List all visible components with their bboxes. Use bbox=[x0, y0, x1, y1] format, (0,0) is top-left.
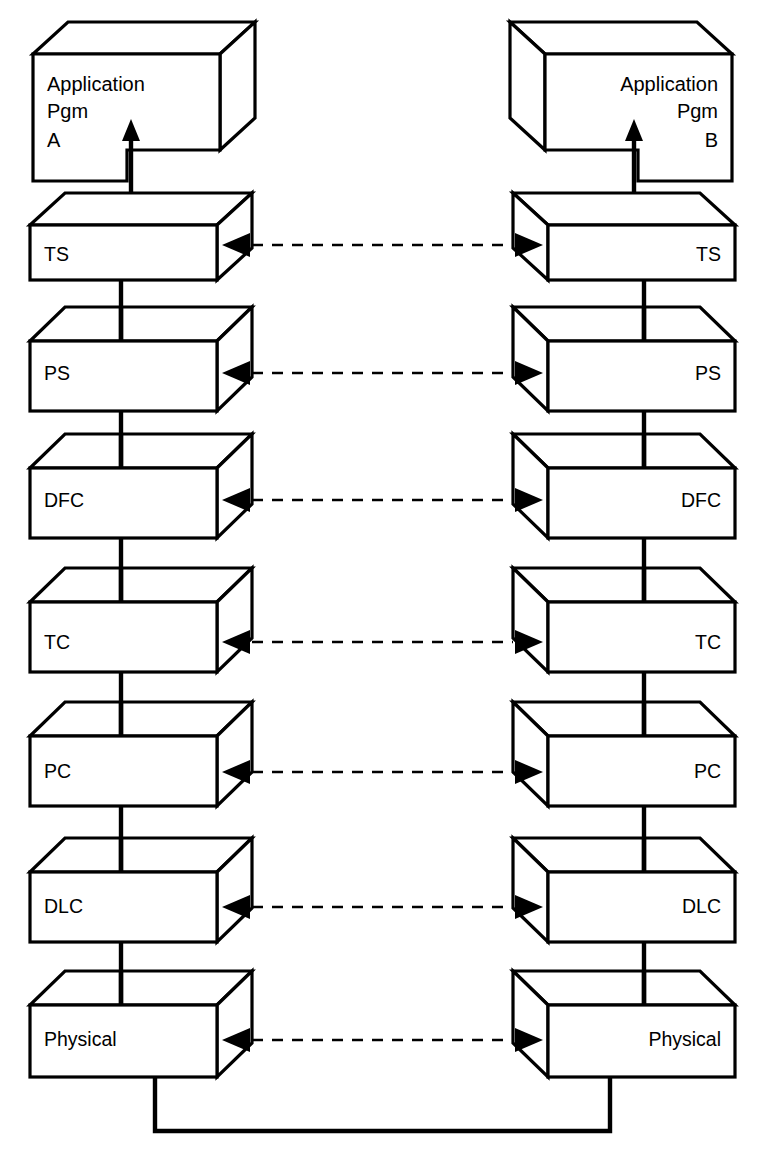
layer-box-left-physical-label: Physical bbox=[44, 1028, 117, 1050]
layer-box-right-physical-label: Physical bbox=[648, 1028, 721, 1050]
layer-box-right-dlc: DLC bbox=[513, 838, 735, 942]
layer-box-left-pc-lid bbox=[30, 702, 252, 736]
layer-box-left-dfc-label: DFC bbox=[44, 489, 84, 511]
layer-box-right-ts-label: TS bbox=[696, 243, 721, 265]
layer-box-left-ts-label: TS bbox=[44, 243, 69, 265]
layer-box-left-physical-lid bbox=[30, 971, 252, 1005]
application-box-left-line2: Pgm bbox=[47, 100, 88, 122]
layer-box-left-dlc-label: DLC bbox=[44, 895, 83, 917]
application-box-left-line1: Application bbox=[47, 73, 145, 95]
peer-link-tc bbox=[222, 630, 543, 654]
layer-box-right-tc: TC bbox=[513, 568, 735, 672]
stack-diagram-canvas: Application Pgm A Application Pgm B TS T… bbox=[0, 0, 765, 1157]
layer-box-right-dfc-label: DFC bbox=[681, 489, 721, 511]
peer-link-ts bbox=[222, 233, 543, 257]
layer-box-right-pc-label: PC bbox=[694, 760, 721, 782]
peer-link-dlc bbox=[222, 895, 543, 919]
layer-box-left-tc-label: TC bbox=[44, 631, 70, 653]
application-box-left-line3: A bbox=[47, 129, 61, 151]
layer-box-right-ps: PS bbox=[513, 307, 735, 411]
layer-box-left-pc: PC bbox=[30, 702, 252, 806]
layer-box-right-dlc-label: DLC bbox=[682, 895, 721, 917]
layer-box-left-dfc-lid bbox=[30, 434, 252, 468]
peer-link-physical bbox=[222, 1028, 543, 1052]
layer-box-right-physical: Physical bbox=[513, 971, 735, 1077]
layer-box-left-ps-lid bbox=[30, 307, 252, 341]
layer-box-right-tc-label: TC bbox=[695, 631, 721, 653]
application-box-right-line3: B bbox=[705, 129, 718, 151]
application-box-right-line1: Application bbox=[620, 73, 718, 95]
peer-link-pc bbox=[222, 760, 543, 784]
layer-box-left-dlc: DLC bbox=[30, 838, 252, 942]
layer-box-right-pc-lid bbox=[513, 702, 735, 736]
application-box-left-lid bbox=[33, 22, 255, 54]
layer-box-left-physical: Physical bbox=[30, 971, 252, 1077]
layer-box-right-pc: PC bbox=[513, 702, 735, 806]
protocol-stack-diagram: Application Pgm A Application Pgm B TS T… bbox=[0, 0, 765, 1157]
layer-box-left-dlc-lid bbox=[30, 838, 252, 872]
peer-link-dfc bbox=[222, 488, 543, 512]
layer-box-right-ps-label: PS bbox=[695, 362, 721, 384]
layer-box-left-ps: PS bbox=[30, 307, 252, 411]
layer-box-left-ts-lid bbox=[30, 193, 252, 225]
layer-box-right-dfc: DFC bbox=[513, 434, 735, 538]
layer-box-left-tc: TC bbox=[30, 568, 252, 672]
peer-link-ps bbox=[222, 361, 543, 385]
application-box-right: Application Pgm B bbox=[510, 22, 732, 181]
layer-box-left-ps-label: PS bbox=[44, 362, 70, 384]
layer-box-left-pc-label: PC bbox=[44, 760, 71, 782]
application-box-right-lid bbox=[510, 22, 732, 54]
layer-box-left-tc-lid bbox=[30, 568, 252, 602]
layer-box-right-ts-lid bbox=[513, 193, 735, 225]
layer-box-left-ts: TS bbox=[30, 193, 252, 280]
layer-box-right-dfc-lid bbox=[513, 434, 735, 468]
layer-box-right-ts: TS bbox=[513, 193, 735, 280]
application-box-left: Application Pgm A bbox=[33, 22, 255, 181]
layer-box-right-tc-lid bbox=[513, 568, 735, 602]
physical-medium-link bbox=[155, 1077, 610, 1131]
layer-box-left-dfc: DFC bbox=[30, 434, 252, 538]
layer-box-right-dlc-lid bbox=[513, 838, 735, 872]
layer-box-right-physical-lid bbox=[513, 971, 735, 1005]
layer-box-right-ps-lid bbox=[513, 307, 735, 341]
application-box-right-line2: Pgm bbox=[677, 100, 718, 122]
